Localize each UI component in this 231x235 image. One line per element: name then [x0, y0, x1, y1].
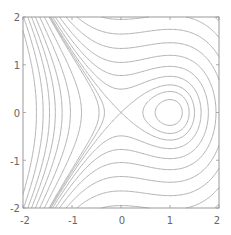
contour-line: [66, 17, 219, 208]
x-tick-label: -1: [68, 215, 78, 226]
x-tick-label: -2: [20, 215, 30, 226]
y-tick-label: 0: [14, 108, 20, 119]
contour-line: [24, 17, 44, 208]
contour-line: [35, 17, 62, 208]
y-axis-labels: -2 -1 0 1 2: [10, 12, 20, 214]
y-tick-label: 1: [14, 60, 20, 71]
contour-line: [77, 17, 219, 208]
x-axis-labels: -2 -1 0 1 2: [20, 215, 220, 226]
x-tick-label: 1: [167, 215, 173, 226]
y-tick-label: -2: [10, 203, 20, 214]
contour-line: [102, 17, 219, 208]
contour-line: [28, 17, 50, 208]
y-tick-label: -1: [10, 156, 20, 167]
contour-lines: [23, 17, 219, 208]
y-tick-label: 2: [14, 12, 20, 23]
contour-line: [59, 17, 216, 208]
contour-plot: -2 -1 0 1 2 -2 -1 0 1 2: [0, 0, 231, 235]
x-tick-label: 0: [119, 215, 125, 226]
x-tick-label: 2: [214, 215, 220, 226]
contour-line: [51, 17, 195, 208]
contour-line: [53, 17, 201, 208]
contour-line: [50, 17, 189, 208]
contour-line: [55, 17, 208, 208]
